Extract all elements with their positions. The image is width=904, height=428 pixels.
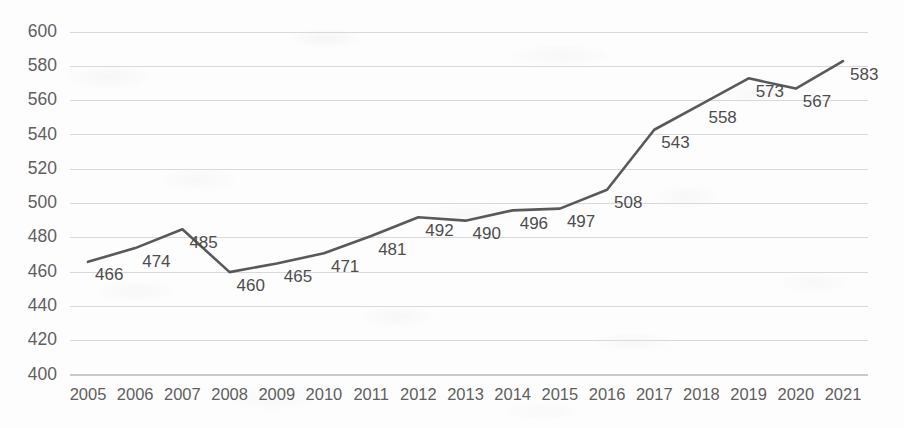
- x-axis-tick-label: 2013: [447, 385, 484, 403]
- chart-page: 400420440460480500520540560580600 200520…: [0, 0, 904, 428]
- y-axis-tick-label: 580: [28, 55, 57, 75]
- data-point-label: 567: [803, 92, 831, 111]
- data-point-label: 465: [284, 267, 312, 286]
- x-axis-tick-label: 2015: [542, 385, 579, 403]
- x-axis-tick-label: 2017: [636, 385, 673, 403]
- y-axis-tick-label: 460: [28, 261, 57, 281]
- line-chart: 400420440460480500520540560580600 200520…: [0, 0, 904, 428]
- x-axis-tick-label: 2012: [400, 385, 437, 403]
- x-axis-tick-label: 2010: [306, 385, 343, 403]
- y-axis-tick-label: 600: [28, 21, 57, 41]
- y-axis-tick-label: 420: [28, 329, 57, 349]
- y-axis-tick-label: 520: [28, 158, 57, 178]
- x-axis-tick-label: 2018: [683, 385, 720, 403]
- x-axis-tick-label: 2008: [211, 385, 248, 403]
- x-axis-tick-label: 2006: [117, 385, 154, 403]
- x-axis-tick-label: 2014: [494, 385, 531, 403]
- data-point-label: 474: [142, 252, 170, 271]
- x-axis-tick-label: 2009: [258, 385, 295, 403]
- data-point-label: 583: [850, 65, 878, 84]
- data-point-label: 573: [756, 82, 784, 101]
- y-axis-tick-label-group: 400420440460480500520540560580600: [28, 21, 57, 384]
- data-point-label: 497: [567, 212, 595, 231]
- x-axis-tick-label: 2007: [164, 385, 201, 403]
- y-axis-tick-label: 540: [28, 124, 57, 144]
- data-point-label: 485: [189, 233, 217, 252]
- data-point-label: 543: [661, 133, 689, 152]
- x-axis-tick-label-group: 2005200620072008200920102011201220132014…: [70, 385, 862, 403]
- x-axis-tick-label: 2011: [353, 385, 388, 403]
- y-axis-tick-label: 440: [28, 295, 57, 315]
- y-axis-tick-label: 560: [28, 89, 57, 109]
- data-point-label: 490: [473, 224, 501, 243]
- x-axis-tick-label: 2019: [730, 385, 767, 403]
- data-point-label: 460: [237, 276, 265, 295]
- data-point-label-group: 4664744854604654714814924904964975085435…: [95, 65, 878, 295]
- x-axis-tick-label: 2020: [777, 385, 814, 403]
- data-point-label: 471: [331, 257, 359, 276]
- data-point-label: 558: [708, 108, 736, 127]
- data-point-label: 481: [378, 240, 406, 259]
- data-point-label: 508: [614, 193, 642, 212]
- x-axis-tick-label: 2005: [70, 385, 107, 403]
- data-point-label: 496: [520, 214, 548, 233]
- x-axis-tick-label: 2021: [825, 385, 862, 403]
- gridline-group: [70, 32, 868, 375]
- y-axis-tick-label: 480: [28, 226, 57, 246]
- x-axis-tick-label: 2016: [589, 385, 626, 403]
- y-axis-tick-label: 400: [28, 364, 57, 384]
- data-point-label: 466: [95, 265, 123, 284]
- y-axis-tick-label: 500: [28, 192, 57, 212]
- data-point-label: 492: [425, 221, 453, 240]
